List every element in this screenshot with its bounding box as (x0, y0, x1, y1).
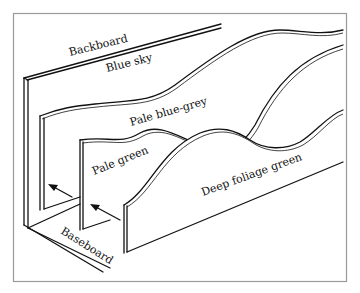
scenery-diagram: Backboard Blue sky Pale blue-grey Pale g… (0, 0, 360, 293)
